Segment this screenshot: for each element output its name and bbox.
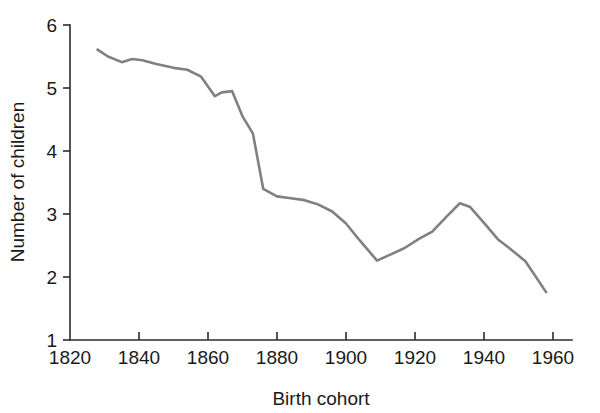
y-axis-title: Number of children — [7, 102, 28, 263]
data-series-line-0 — [98, 50, 546, 293]
y-tick-label-2: 2 — [46, 267, 57, 288]
y-tick-label-6: 6 — [46, 15, 57, 36]
series-group — [98, 50, 546, 293]
y-tick-label-4: 4 — [46, 141, 57, 162]
x-tick-label-1960: 1960 — [532, 347, 574, 368]
y-axis-ticks: 123456 — [46, 15, 70, 351]
x-tick-label-1900: 1900 — [325, 347, 367, 368]
y-tick-label-3: 3 — [46, 204, 57, 225]
line-chart: 123456 18201840186018801900192019401960 … — [0, 0, 600, 413]
chart-figure: 123456 18201840186018801900192019401960 … — [0, 0, 600, 413]
y-tick-label-5: 5 — [46, 78, 57, 99]
x-tick-label-1860: 1860 — [187, 347, 229, 368]
x-tick-label-1820: 1820 — [49, 347, 91, 368]
x-tick-label-1840: 1840 — [118, 347, 160, 368]
x-axis-ticks: 18201840186018801900192019401960 — [49, 332, 574, 368]
x-axis-title: Birth cohort — [272, 388, 370, 409]
x-tick-label-1920: 1920 — [394, 347, 436, 368]
x-tick-label-1940: 1940 — [463, 347, 505, 368]
x-tick-label-1880: 1880 — [256, 347, 298, 368]
